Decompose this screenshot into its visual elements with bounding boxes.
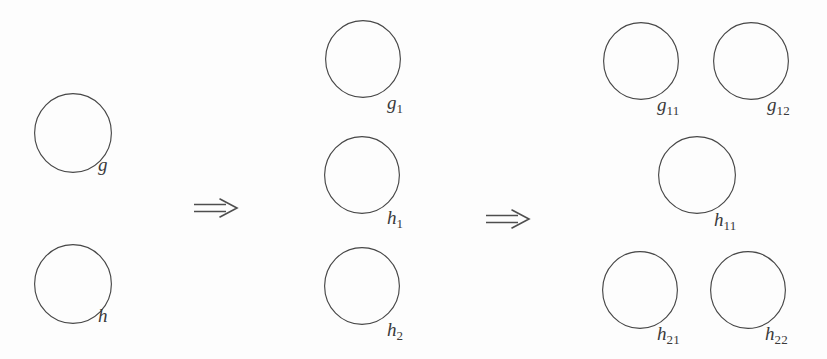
circle-outline [714,23,789,100]
label-h21: h21 [657,324,680,343]
label-subscript: 1 [397,216,404,231]
label-subscript: 22 [775,332,788,347]
circle-g11 [603,22,679,100]
label-base: h [765,323,775,344]
refinement-diagram: g h g1 [0,0,827,359]
label-h2: h2 [387,320,403,339]
label-h: h [98,306,108,325]
label-base: g [98,154,108,175]
label-subscript: 1 [397,101,404,116]
label-h1: h1 [387,208,403,227]
label-base: h [387,207,397,228]
label-base: h [387,319,397,340]
label-h11: h11 [714,210,736,229]
label-subscript: 21 [667,332,680,347]
circle-outline [325,137,400,214]
label-subscript: 12 [777,103,790,118]
circle-g1 [325,20,401,98]
label-g1: g1 [387,93,403,112]
label-base: g [767,94,777,115]
label-g11: g11 [657,95,679,114]
label-g12: g12 [767,95,790,114]
label-base: h [714,209,724,230]
label-base: h [657,323,667,344]
label-base: h [98,305,108,326]
arrow-head [220,199,237,217]
label-base: g [657,94,667,115]
arrow-head [512,210,529,228]
circle-h1 [324,136,400,214]
circle-outline [659,137,736,214]
circle-outline [603,252,678,329]
circle-outline [711,252,786,329]
label-h22: h22 [765,324,788,343]
circle-h11 [658,136,736,214]
label-subscript: 11 [724,218,737,233]
label-subscript: 2 [397,328,404,343]
circle-outline [325,248,400,325]
label-base: g [387,92,397,113]
circle-g12 [713,22,789,100]
circle-outline [326,21,401,98]
circle-h2 [324,247,400,325]
circle-outline [604,23,679,100]
implies-arrow-icon-1 [194,198,239,218]
circle-h22 [710,251,786,329]
label-subscript: 11 [667,103,680,118]
circle-h21 [602,251,678,329]
label-g: g [98,155,108,174]
implies-arrow-icon-2 [486,209,531,229]
